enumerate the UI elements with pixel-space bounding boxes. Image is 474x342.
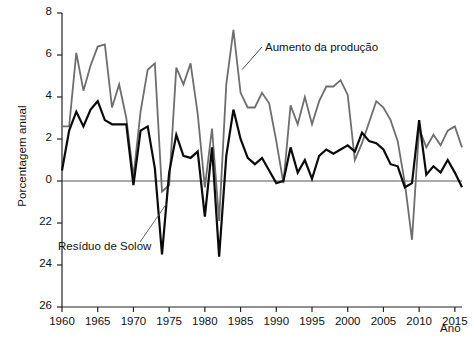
y-tick-label: 4	[22, 89, 52, 101]
chart-figure: Porcentagem anual Ano 86420222426 196019…	[0, 0, 474, 342]
solow-leader-line	[140, 204, 166, 242]
producao-annotation-label: Aumento da produção	[265, 41, 378, 53]
y-tick-label: 24	[22, 257, 52, 269]
series-line-1	[62, 101, 462, 256]
y-tick-label: 0	[22, 173, 52, 185]
y-axis-title: Porcentagem anual	[16, 96, 28, 216]
y-tick-label: 22	[22, 215, 52, 227]
producao-leader-line	[242, 47, 262, 70]
solow-annotation-label: Resíduo de Solow	[58, 240, 151, 252]
y-tick-label: 6	[22, 47, 52, 59]
y-tick-label: 8	[22, 5, 52, 17]
series-line-0	[62, 30, 462, 240]
y-tick-label: 26	[22, 299, 52, 311]
chart-plot-area	[0, 0, 474, 342]
series-layer	[62, 30, 462, 257]
x-tick-label: 2015	[433, 315, 474, 327]
y-tick-label: 2	[22, 131, 52, 143]
